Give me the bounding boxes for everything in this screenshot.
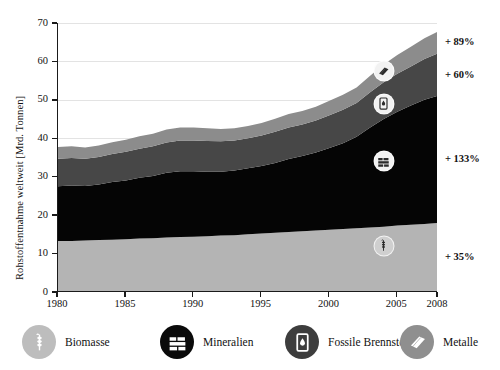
legend-item-mineralien[interactable]: Mineralien <box>160 322 253 362</box>
growth-label-mineralien: + 133% <box>445 153 480 164</box>
x-tick-label: 1990 <box>182 298 203 309</box>
x-tick-mark <box>124 292 125 297</box>
legend-item-biomasse[interactable]: Biomasse <box>22 322 110 362</box>
plot-clip <box>58 23 437 291</box>
y-tick-mark <box>52 253 57 254</box>
legend-label: Biomasse <box>65 336 110 348</box>
y-tick-label: 30 <box>0 171 48 182</box>
metal-ingot-icon <box>377 64 391 78</box>
y-tick-label: 20 <box>0 210 48 221</box>
y-tick-label: 0 <box>0 287 48 298</box>
metal-ingot-icon <box>407 332 428 353</box>
y-tick-mark <box>52 138 57 139</box>
x-tick-mark <box>56 292 57 297</box>
legend-swatch <box>285 325 319 359</box>
bricks-icon <box>167 332 188 353</box>
y-tick-label: 40 <box>0 133 48 144</box>
x-tick-label: 1980 <box>47 298 68 309</box>
y-tick-label: 60 <box>0 56 48 67</box>
x-tick-label: 1985 <box>114 298 135 309</box>
legend-swatch <box>400 325 434 359</box>
x-tick-label: 2008 <box>427 298 448 309</box>
metalle-badge <box>373 61 394 82</box>
y-tick-mark <box>52 99 57 100</box>
x-tick-mark <box>436 292 437 297</box>
biomasse-badge <box>373 235 394 256</box>
legend-item-fossile-brennstoffe[interactable]: Fossile Brennstoffe <box>285 322 418 362</box>
fossile-badge <box>373 93 394 114</box>
x-tick-label: 1995 <box>250 298 271 309</box>
chart-figure: Rohstoffentnahme weltweit [Mrd. Tonnen] … <box>0 0 500 370</box>
growth-label-fossile-brennstoffe: + 60% <box>445 69 475 80</box>
y-tick-label: 70 <box>0 18 48 29</box>
legend-item-metalle[interactable]: Metalle <box>400 322 478 362</box>
wheat-icon <box>29 332 50 353</box>
x-tick-mark <box>192 292 193 297</box>
bricks-icon <box>377 154 391 168</box>
y-tick-mark <box>52 176 57 177</box>
y-tick-mark <box>52 214 57 215</box>
growth-label-biomasse: + 35% <box>445 251 475 262</box>
y-tick-mark <box>52 22 57 23</box>
y-tick-label: 50 <box>0 94 48 105</box>
x-tick-label: 2000 <box>318 298 339 309</box>
oil-barrel-icon <box>377 97 391 111</box>
plot-area <box>57 23 437 292</box>
mineralien-badge <box>373 151 394 172</box>
y-axis-title: Rohstoffentnahme weltweit [Mrd. Tonnen] <box>14 30 25 280</box>
legend-label: Metalle <box>443 336 478 348</box>
y-tick-label: 10 <box>0 248 48 259</box>
growth-label-metalle: + 89% <box>445 36 475 47</box>
x-tick-label: 2005 <box>386 298 407 309</box>
legend-label: Mineralien <box>203 336 253 348</box>
x-tick-mark <box>396 292 397 297</box>
chart-legend: BiomasseMineralienFossile BrennstoffeMet… <box>0 318 500 370</box>
wheat-icon <box>377 239 391 253</box>
oil-barrel-icon <box>292 332 313 353</box>
legend-swatch <box>160 325 194 359</box>
x-tick-mark <box>328 292 329 297</box>
x-tick-mark <box>260 292 261 297</box>
legend-swatch <box>22 325 56 359</box>
y-tick-mark <box>52 61 57 62</box>
